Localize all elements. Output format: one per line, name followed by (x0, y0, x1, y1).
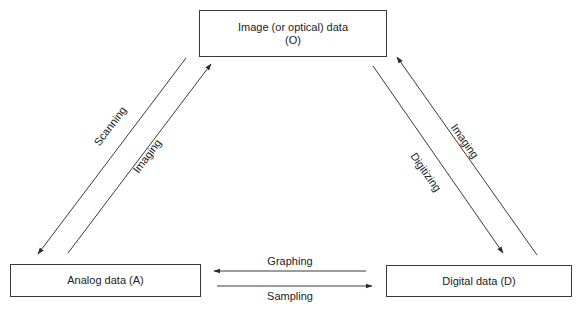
node-analog-data: Analog data (A) (10, 264, 201, 297)
edge-label-graphing: Graphing (250, 255, 330, 267)
node-analog-label: Analog data (A) (67, 274, 143, 287)
node-optical-data: Image (or optical) data (O) (199, 10, 387, 57)
node-digital-data: Digital data (D) (386, 265, 572, 297)
digitizing-arrow (373, 66, 503, 253)
node-optical-code: (O) (285, 34, 301, 47)
edge-label-sampling: Sampling (250, 290, 330, 302)
node-optical-label: Image (or optical) data (238, 21, 348, 34)
node-digital-label: Digital data (D) (442, 275, 515, 288)
scanning-arrow (38, 58, 186, 254)
